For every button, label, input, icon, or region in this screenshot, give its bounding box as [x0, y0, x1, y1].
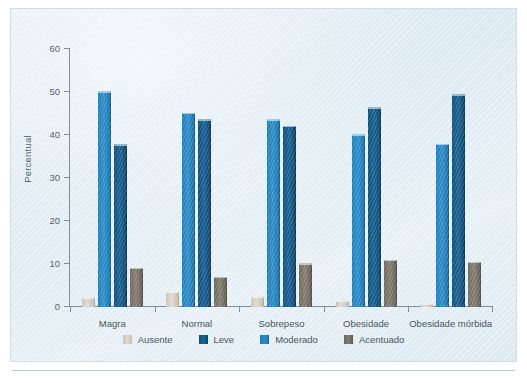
bar[interactable] [166, 292, 179, 307]
y-tick-mark [64, 177, 69, 178]
y-tick-label: 20 [49, 215, 60, 226]
bar[interactable] [468, 262, 481, 307]
y-tick-label: 50 [49, 86, 60, 97]
bar[interactable] [214, 277, 227, 307]
y-tick-label: 30 [49, 172, 60, 183]
y-tick-mark [64, 263, 69, 264]
bar[interactable] [251, 296, 264, 307]
x-tick-label: Obesidade mórbida [409, 318, 492, 329]
legend-swatch-icon [344, 335, 353, 344]
legend-item[interactable]: Ausente [123, 334, 173, 345]
bar[interactable] [82, 297, 95, 307]
x-tick-mark [324, 307, 325, 312]
legend-item[interactable]: Leve [199, 334, 235, 345]
bar[interactable] [384, 260, 397, 307]
bar[interactable] [267, 119, 280, 307]
bar[interactable] [420, 304, 433, 307]
legend-item[interactable]: Acentuado [344, 334, 404, 345]
chart-figure: Percentual 0102030405060 MagraNormalSobr… [0, 0, 527, 383]
bar[interactable] [452, 94, 465, 307]
legend-label: Acentuado [359, 334, 404, 345]
bar[interactable] [352, 134, 365, 307]
bar-group: Normal [155, 39, 240, 307]
bar[interactable] [299, 263, 312, 307]
y-tick-mark [64, 48, 69, 49]
y-tick-mark [64, 306, 69, 307]
bar[interactable] [198, 119, 211, 307]
legend-swatch-icon [260, 335, 269, 344]
x-tick-label: Normal [182, 318, 213, 329]
x-tick-mark [70, 307, 71, 312]
bar[interactable] [336, 301, 349, 307]
bar-group: Obesidade [324, 39, 409, 307]
chart-legend: AusenteLeveModeradoAcentuado [11, 334, 516, 345]
bar-groups: MagraNormalSobrepesoObesidadeObesidade m… [70, 39, 493, 307]
x-tick-mark [155, 307, 156, 312]
bar[interactable] [182, 113, 195, 307]
bar-group-bars [408, 39, 493, 307]
legend-swatch-icon [199, 335, 208, 344]
x-tick-mark [408, 307, 409, 312]
x-tick-label: Magra [99, 318, 126, 329]
y-tick-mark [64, 134, 69, 135]
chart-panel: Percentual 0102030405060 MagraNormalSobr… [10, 8, 517, 362]
bar-group: Sobrepeso [239, 39, 324, 307]
x-tick-mark [239, 307, 240, 312]
y-tick-label: 0 [55, 301, 60, 312]
bar[interactable] [114, 144, 127, 307]
bar[interactable] [436, 144, 449, 307]
legend-swatch-icon [123, 335, 132, 344]
x-tick-label: Obesidade [343, 318, 389, 329]
bar-group: Obesidade mórbida [408, 39, 493, 307]
y-tick-mark [64, 220, 69, 221]
x-tick-label: Sobrepeso [259, 318, 305, 329]
y-tick-label: 10 [49, 258, 60, 269]
footer-rule [12, 370, 515, 371]
legend-label: Leve [214, 334, 235, 345]
bar-group-bars [70, 39, 155, 307]
bar-group-bars [324, 39, 409, 307]
bar-group-bars [155, 39, 240, 307]
bar[interactable] [130, 268, 143, 307]
legend-item[interactable]: Moderado [260, 334, 318, 345]
legend-label: Ausente [138, 334, 173, 345]
plot-area: 0102030405060 MagraNormalSobrepesoObesid… [69, 39, 493, 311]
bar[interactable] [283, 126, 296, 307]
x-tick-mark [492, 307, 493, 312]
y-axis-title: Percentual [22, 135, 33, 182]
y-tick-label: 60 [49, 43, 60, 54]
legend-label: Moderado [275, 334, 318, 345]
y-tick-mark [64, 91, 69, 92]
y-tick-label: 40 [49, 129, 60, 140]
bar[interactable] [98, 91, 111, 307]
bar-group: Magra [70, 39, 155, 307]
bar[interactable] [368, 107, 381, 307]
bar-group-bars [239, 39, 324, 307]
